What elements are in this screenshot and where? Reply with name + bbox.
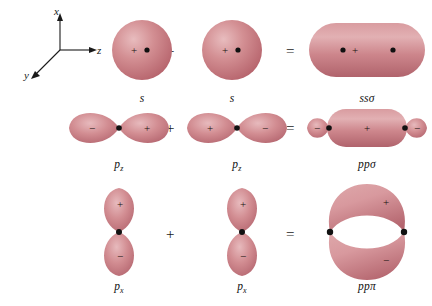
nucleus-dot-s-left — [144, 47, 149, 52]
label-px-right: px — [205, 280, 279, 295]
orbital-overlap-figure: x z y — [0, 0, 432, 306]
sign-negative-pz-left-lobe: − — [89, 122, 95, 134]
label-px-left: px — [82, 280, 156, 295]
nucleus-dot-px-left — [116, 229, 122, 235]
sign-positive-s-right: + — [222, 44, 228, 56]
nucleus-dot-ss-right — [390, 47, 395, 52]
orbital-px-left: + − px — [82, 184, 156, 306]
pp-sigma-shape: − + − — [303, 104, 431, 152]
pp-pi-shape: + − — [314, 182, 420, 282]
sign-negative-pppi-bottom: − — [383, 254, 389, 266]
ss-sigma-oval: + — [307, 17, 427, 83]
sign-negative-ppsigma-left: − — [314, 122, 320, 134]
orbital-pz-left: − + pz — [60, 100, 178, 182]
orbital-ss-sigma-result: + ssσ — [305, 8, 429, 100]
orbital-s-right: + s — [195, 8, 269, 100]
row-pp-pi: + = + − px + — [0, 184, 432, 306]
orbital-pp-pi-result: + − ppπ — [305, 184, 429, 306]
s-orbital-sphere-right: + — [200, 18, 264, 82]
nucleus-dot-pppi-right — [401, 229, 407, 235]
sign-positive-s-left: + — [131, 44, 137, 56]
orbital-pz-right: + − pz — [178, 100, 296, 182]
sign-positive-px-right-top: + — [240, 198, 246, 210]
sign-positive-pppi-top: + — [383, 196, 389, 208]
label-pz-left: pz — [60, 158, 178, 173]
sign-negative-ppsigma-right: − — [414, 122, 420, 134]
orbital-px-right: + − px — [205, 184, 279, 306]
nucleus-dot-pppi-left — [327, 229, 333, 235]
nucleus-dot-ss-left — [340, 47, 345, 52]
pz-orbital-right: + − — [181, 104, 293, 152]
s-orbital-sphere-left: + — [110, 18, 174, 82]
sign-positive-ss-sigma: + — [352, 44, 358, 56]
nucleus-dot-pz-right — [234, 125, 240, 131]
orbital-s-left: + s — [105, 8, 179, 100]
sign-negative-px-right-bottom: − — [240, 250, 246, 262]
nucleus-dot-pz-left — [116, 125, 122, 131]
px-orbital-left: + − — [92, 184, 146, 280]
row-pp-sigma: + = − + pz + — [0, 100, 432, 182]
sign-positive-px-left-top: + — [117, 198, 123, 210]
operator-equals-row1: = — [286, 44, 294, 59]
label-pp-pi: ppπ — [305, 280, 429, 292]
nucleus-dot-ppsigma-right — [402, 125, 408, 131]
px-orbital-right: + − — [215, 184, 269, 280]
nucleus-dot-px-right — [239, 229, 245, 235]
row-ss-sigma: + = + s + s — [0, 8, 432, 100]
label-pz-right: pz — [178, 158, 296, 173]
sign-positive-pz-left-rlobe: + — [144, 122, 150, 134]
sign-positive-pz-right-llobe: + — [207, 122, 213, 134]
label-pp-sigma: ppσ — [302, 158, 432, 170]
operator-equals-row3: = — [286, 227, 294, 242]
sign-negative-px-left-bottom: − — [117, 250, 123, 262]
nucleus-dot-s-right — [235, 47, 240, 52]
orbital-pp-sigma-result: − + − ppσ — [302, 100, 432, 182]
pz-orbital-left: − + — [63, 104, 175, 152]
nucleus-dot-ppsigma-left — [326, 125, 332, 131]
operator-plus-row3: + — [166, 227, 174, 242]
sign-positive-ppsigma-center: + — [364, 122, 370, 134]
sign-negative-pz-right-rlobe: − — [262, 122, 268, 134]
